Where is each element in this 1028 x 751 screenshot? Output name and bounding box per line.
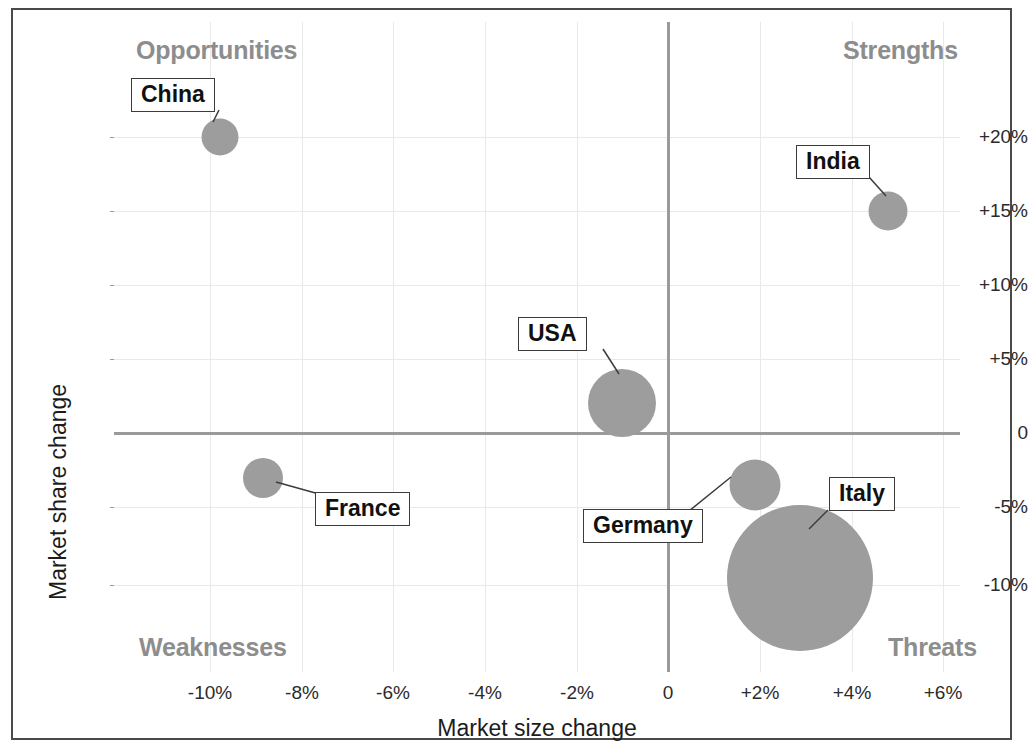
leader-line-france (276, 482, 319, 494)
x-tick-label: -2% (560, 682, 594, 704)
callout-germany[interactable]: Germany (583, 509, 703, 543)
axis-zero-horizontal (114, 432, 960, 435)
gridline-horizontal (114, 137, 960, 138)
gridline-horizontal (114, 211, 960, 212)
chart-page: Market share change +20% +15% +10% +5% 0… (0, 0, 1028, 751)
gridline-vertical (302, 22, 303, 672)
x-tick-label: -10% (188, 682, 232, 704)
x-tick-label: -8% (285, 682, 319, 704)
gridline-vertical (393, 22, 394, 672)
callout-india[interactable]: India (796, 145, 870, 179)
callout-china[interactable]: China (131, 78, 215, 112)
axis-zero-vertical (667, 22, 670, 672)
bubble-italy[interactable] (727, 505, 873, 651)
quadrant-label-strengths: Strengths (843, 36, 958, 65)
x-tick-label: -6% (376, 682, 410, 704)
x-tick-label: -4% (468, 682, 502, 704)
gridline-horizontal (114, 359, 960, 360)
bubble-usa[interactable] (588, 369, 656, 437)
x-tick-label: 0 (663, 682, 674, 704)
quadrant-label-weaknesses: Weaknesses (139, 633, 287, 662)
gridline-vertical (485, 22, 486, 672)
bubble-france[interactable] (243, 458, 283, 498)
bubble-india[interactable] (869, 192, 908, 231)
x-tick-label: +6% (924, 682, 963, 704)
x-tick-label: +4% (833, 682, 872, 704)
quadrant-label-opportunities: Opportunities (136, 36, 297, 65)
bubble-germany[interactable] (730, 460, 781, 511)
y-axis-title: Market share change (45, 384, 72, 600)
callout-usa[interactable]: USA (518, 317, 587, 351)
callout-italy[interactable]: Italy (829, 477, 895, 511)
bubble-china[interactable] (202, 119, 239, 156)
plot-area: Opportunities Strengths Weaknesses Threa… (114, 22, 960, 672)
gridline-vertical (943, 22, 944, 672)
x-axis-title: Market size change (437, 715, 636, 742)
gridline-horizontal (114, 285, 960, 286)
leader-line-germany (689, 477, 731, 511)
callout-france[interactable]: France (315, 492, 410, 526)
x-tick-label: +2% (741, 682, 780, 704)
quadrant-label-threats: Threats (888, 633, 977, 662)
